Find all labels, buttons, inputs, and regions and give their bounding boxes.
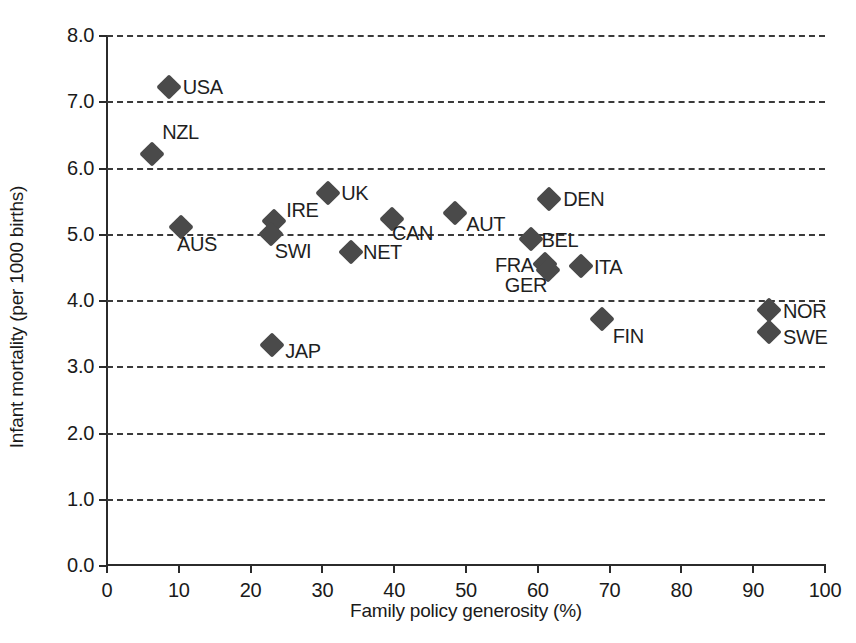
x-tick-mark xyxy=(824,565,826,573)
x-tick-label: 50 xyxy=(455,579,477,602)
x-tick-mark xyxy=(106,565,108,573)
data-point-label: GER xyxy=(505,274,547,297)
diamond-marker-icon xyxy=(518,226,543,251)
gridline xyxy=(107,300,825,302)
y-tick-mark xyxy=(99,35,107,37)
data-point-label: ITA xyxy=(594,256,622,279)
diamond-marker-icon xyxy=(315,180,340,205)
gridline xyxy=(107,35,825,37)
y-tick-label: 7.0 xyxy=(67,90,94,113)
x-tick-label: 0 xyxy=(102,579,113,602)
x-tick-mark xyxy=(393,565,395,573)
y-tick-label: 4.0 xyxy=(67,289,94,312)
scatter-chart-figure: Infant mortality (per 1000 births) Famil… xyxy=(0,0,856,643)
x-tick-label: 60 xyxy=(527,579,549,602)
diamond-marker-icon xyxy=(442,200,467,225)
x-tick-mark xyxy=(250,565,252,573)
gridline xyxy=(107,499,825,501)
y-tick-mark xyxy=(99,499,107,501)
y-tick-mark xyxy=(99,366,107,368)
y-tick-label: 0.0 xyxy=(67,554,94,577)
y-tick-mark xyxy=(99,300,107,302)
y-tick-label: 6.0 xyxy=(67,156,94,179)
data-point-label: BEL xyxy=(542,229,579,252)
x-axis-title: Family policy generosity (%) xyxy=(107,600,825,622)
x-tick-label: 40 xyxy=(383,579,405,602)
y-tick-label: 5.0 xyxy=(67,222,94,245)
x-tick-label: 70 xyxy=(599,579,621,602)
y-tick-label: 8.0 xyxy=(67,24,94,47)
data-point-label: NZL xyxy=(162,121,199,144)
gridline xyxy=(107,101,825,103)
x-tick-mark xyxy=(680,565,682,573)
data-point-label: DEN xyxy=(563,188,604,211)
data-point-label: SWI xyxy=(275,240,312,263)
plot-area: 0.01.02.03.04.05.06.07.08.0 010203040506… xyxy=(107,35,825,565)
x-tick-label: 80 xyxy=(671,579,693,602)
x-tick-label: 30 xyxy=(312,579,334,602)
data-point-label: USA xyxy=(183,76,223,99)
data-point-label: CAN xyxy=(392,222,433,245)
diamond-marker-icon xyxy=(139,142,164,167)
data-point-label: NOR xyxy=(783,300,826,323)
x-tick-mark xyxy=(609,565,611,573)
gridline xyxy=(107,366,825,368)
data-point-label: IRE xyxy=(286,199,318,222)
x-tick-label: 100 xyxy=(809,579,841,602)
diamond-marker-icon xyxy=(756,319,781,344)
data-point-label: FIN xyxy=(613,325,644,348)
diamond-marker-icon xyxy=(259,332,284,357)
y-tick-mark xyxy=(99,101,107,103)
y-tick-label: 1.0 xyxy=(67,487,94,510)
x-tick-mark xyxy=(178,565,180,573)
diamond-marker-icon xyxy=(589,306,614,331)
diamond-marker-icon xyxy=(338,240,363,265)
x-tick-mark xyxy=(465,565,467,573)
y-tick-mark xyxy=(99,168,107,170)
y-tick-mark xyxy=(99,433,107,435)
y-axis-title: Infant mortality (per 1000 births) xyxy=(0,52,34,582)
x-tick-label: 90 xyxy=(742,579,764,602)
x-tick-mark xyxy=(752,565,754,573)
diamond-marker-icon xyxy=(156,74,181,99)
data-point-label: JAP xyxy=(285,340,320,363)
x-tick-mark xyxy=(537,565,539,573)
x-tick-mark xyxy=(321,565,323,573)
data-point-label: UK xyxy=(341,182,368,205)
data-point-label: AUT xyxy=(466,213,505,236)
x-tick-label: 20 xyxy=(240,579,262,602)
data-point-label: AUS xyxy=(177,233,217,256)
y-tick-label: 3.0 xyxy=(67,355,94,378)
data-point-label: SWE xyxy=(783,326,827,349)
x-tick-label: 10 xyxy=(168,579,190,602)
y-tick-label: 2.0 xyxy=(67,421,94,444)
gridline xyxy=(107,168,825,170)
diamond-marker-icon xyxy=(568,253,593,278)
diamond-marker-icon xyxy=(537,187,562,212)
gridline xyxy=(107,433,825,435)
data-point-label: FRA xyxy=(495,254,534,277)
y-tick-mark xyxy=(99,234,107,236)
